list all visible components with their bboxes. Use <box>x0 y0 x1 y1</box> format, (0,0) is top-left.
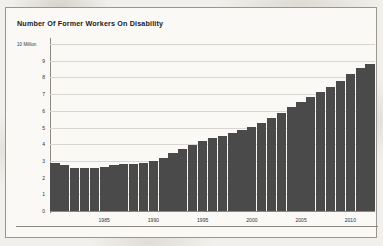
bar <box>90 168 99 211</box>
bar <box>316 92 325 211</box>
bar <box>178 149 187 211</box>
bar <box>100 167 109 211</box>
bar <box>326 87 335 211</box>
x-axis-tick-label: 2000 <box>246 217 257 223</box>
bar <box>277 113 286 211</box>
bar <box>139 163 148 211</box>
bar <box>306 97 315 211</box>
bar <box>149 161 158 211</box>
bar <box>346 74 355 211</box>
gridline <box>50 211 375 212</box>
bar <box>70 168 79 211</box>
bar <box>336 81 345 211</box>
chart-page: Number Of Former Workers On Disability 1… <box>0 0 383 246</box>
bar <box>80 168 89 211</box>
bar <box>188 145 197 211</box>
x-axis-tick-label: 1985 <box>99 217 110 223</box>
x-axis-tick-label: 2005 <box>296 217 307 223</box>
bar-series <box>50 44 375 211</box>
x-axis-tick-label: 2010 <box>345 217 356 223</box>
bar <box>267 118 276 211</box>
bar <box>228 133 237 211</box>
bar <box>159 158 168 211</box>
bar <box>365 64 374 211</box>
y-axis-tick-label: 1 <box>42 191 45 197</box>
bar <box>237 130 246 211</box>
bar <box>218 136 227 211</box>
bar <box>257 123 266 211</box>
y-axis-tick-label: 2 <box>42 175 45 181</box>
y-axis-tick-label: 4 <box>42 141 45 147</box>
y-axis-tick-label: 6 <box>42 108 45 114</box>
bar <box>168 153 177 211</box>
y-axis-unit-label: 10 Million <box>17 42 36 47</box>
y-axis-tick-label: 0 <box>42 208 45 214</box>
y-axis-tick-label: 3 <box>42 158 45 164</box>
bar <box>60 165 69 211</box>
x-axis-ticks: 198519901995200020052010 <box>50 213 375 227</box>
y-axis-tick-label: 5 <box>42 125 45 131</box>
x-axis-tick-label: 1995 <box>197 217 208 223</box>
plot-area: 9876543210 <box>50 44 375 211</box>
x-axis-tick-label: 1990 <box>148 217 159 223</box>
bar <box>296 102 305 211</box>
bar <box>208 138 217 211</box>
bar <box>109 165 118 211</box>
bar <box>129 164 138 211</box>
bar <box>247 127 256 211</box>
bar <box>119 164 128 211</box>
y-axis-tick-label: 7 <box>42 91 45 97</box>
chart-title: Number Of Former Workers On Disability <box>17 19 163 28</box>
y-axis-tick-label: 9 <box>42 58 45 64</box>
bar <box>50 163 59 211</box>
bar <box>198 141 207 211</box>
chart-frame: Number Of Former Workers On Disability 1… <box>5 7 377 238</box>
bar <box>287 107 296 211</box>
bar <box>356 68 365 211</box>
y-axis-tick-label: 8 <box>42 74 45 80</box>
